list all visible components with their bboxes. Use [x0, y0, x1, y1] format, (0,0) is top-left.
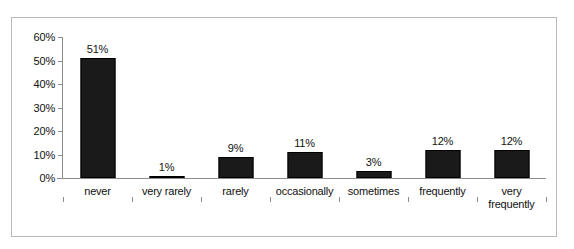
x-axis-category-label: rarely — [201, 185, 270, 198]
bar-slot: 3% — [339, 37, 408, 178]
bar[interactable] — [218, 157, 253, 178]
x-axis-category-label-line: never — [63, 185, 132, 198]
bar-slot: 12% — [477, 37, 546, 178]
bar-value-label: 1% — [159, 161, 175, 173]
x-axis-category-label: veryfrequently — [477, 185, 546, 211]
x-axis-category-label: very rarely — [132, 185, 201, 198]
x-axis-category-label-line: rarely — [201, 185, 270, 198]
x-axis-category-label-line: frequently — [408, 185, 477, 198]
y-axis-tick-label: 40% — [34, 78, 63, 90]
bar-slot: 51% — [63, 37, 132, 178]
x-axis-category-label: occasionally — [270, 185, 339, 198]
y-axis-tick-label: 60% — [34, 31, 63, 43]
x-axis-category-label-line: occasionally — [270, 185, 339, 198]
y-axis-tick-label: 30% — [34, 102, 63, 114]
bar-slot: 1% — [132, 37, 201, 178]
plot-area: 0%10%20%30%40%50%60% 51%1%9%11%3%12%12% — [63, 37, 546, 178]
bar-value-label: 12% — [432, 135, 453, 147]
bar-value-label: 51% — [87, 43, 108, 55]
y-axis-tick-label: 50% — [34, 55, 63, 67]
bar-value-label: 3% — [366, 156, 382, 168]
x-axis-category-label-line: sometimes — [339, 185, 408, 198]
bar-slot: 11% — [270, 37, 339, 178]
bar[interactable] — [149, 176, 184, 178]
x-axis-category-label: frequently — [408, 185, 477, 198]
bar-value-label: 12% — [501, 135, 522, 147]
bar[interactable] — [80, 58, 115, 178]
x-axis-tickmark — [546, 197, 547, 202]
bar-slot: 9% — [201, 37, 270, 178]
y-axis-tick-label: 20% — [34, 125, 63, 137]
y-axis-tick-label: 0% — [40, 172, 64, 184]
chart-frame: 0%10%20%30%40%50%60% 51%1%9%11%3%12%12% … — [11, 17, 557, 237]
bar-value-label: 11% — [294, 137, 315, 149]
bar[interactable] — [287, 152, 322, 178]
x-axis-category-labels: neververy rarelyrarelyoccasionallysometi… — [63, 185, 546, 225]
bar[interactable] — [356, 171, 391, 178]
x-axis-category-label: sometimes — [339, 185, 408, 198]
x-axis-category-label-line: very rarely — [132, 185, 201, 198]
y-axis-tick-label: 10% — [34, 149, 63, 161]
x-axis-line — [57, 178, 546, 179]
x-axis-category-label-line: frequently — [477, 198, 546, 211]
x-axis-category-label: never — [63, 185, 132, 198]
x-axis-category-label-line: very — [477, 185, 546, 198]
bar[interactable] — [494, 150, 529, 178]
bar-value-label: 9% — [228, 142, 244, 154]
bar-slot: 12% — [408, 37, 477, 178]
bar[interactable] — [425, 150, 460, 178]
